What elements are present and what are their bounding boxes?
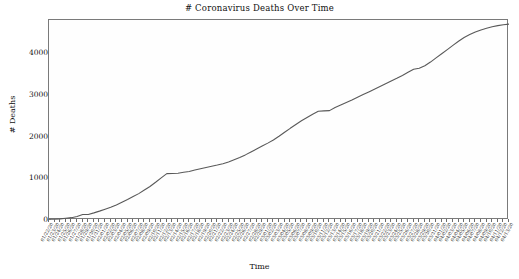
chart-title: # Coronavirus Deaths Over Time: [0, 3, 519, 13]
chart-figure: # Coronavirus Deaths Over Time # Deaths …: [0, 0, 519, 279]
x-axis-tick-labels: 01/22/2001/23/2001/24/2001/25/2001/26/20…: [48, 222, 518, 260]
y-axis-tick-marks: [0, 19, 52, 219]
plot-area: [48, 19, 508, 219]
x-axis-label: Time: [0, 262, 519, 271]
deaths-line-series: [49, 20, 509, 220]
